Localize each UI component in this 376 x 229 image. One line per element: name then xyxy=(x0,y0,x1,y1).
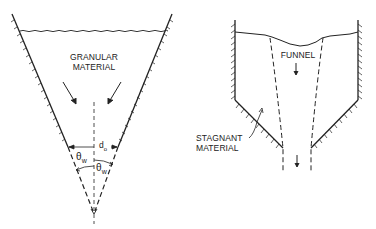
material-surface xyxy=(235,32,358,46)
outlet-diameter-dimension xyxy=(69,145,117,149)
theta-subscript: w xyxy=(102,168,107,175)
funnel-label: FUNNEL xyxy=(278,50,318,60)
flow-arrows xyxy=(294,63,299,167)
funnel-flow-hopper-figure xyxy=(231,20,362,172)
wall-angle-label-left: θw xyxy=(76,152,87,166)
outlet-diameter-label: do xyxy=(99,140,107,154)
right-wall-hatching xyxy=(119,20,173,141)
stagnant-label-line1: STAGNANT xyxy=(196,133,242,143)
outlet-diameter-subscript: o xyxy=(104,146,107,152)
material-surface xyxy=(20,30,168,31)
wall-angle-label-right: θw xyxy=(96,163,107,177)
left-wall xyxy=(12,14,68,147)
hopper-flow-diagrams xyxy=(0,0,376,229)
granular-material-label: GRANULAR MATERIAL xyxy=(64,52,124,72)
flow-arrows xyxy=(63,82,121,104)
stagnant-leader-line xyxy=(249,110,262,138)
right-wall-extension xyxy=(95,147,118,211)
left-wall-hatching xyxy=(11,20,65,141)
material-label-line2: MATERIAL xyxy=(64,62,124,72)
right-hopper-hatching xyxy=(314,104,357,148)
theta-subscript: w xyxy=(82,157,87,164)
stagnant-label-line2: MATERIAL xyxy=(196,143,242,153)
mass-flow-hopper-figure xyxy=(11,14,173,224)
material-label-line1: GRANULAR xyxy=(64,52,124,62)
stagnant-material-label: STAGNANT MATERIAL xyxy=(196,133,242,153)
right-hopper-wall xyxy=(311,100,358,148)
right-wall xyxy=(118,14,172,147)
